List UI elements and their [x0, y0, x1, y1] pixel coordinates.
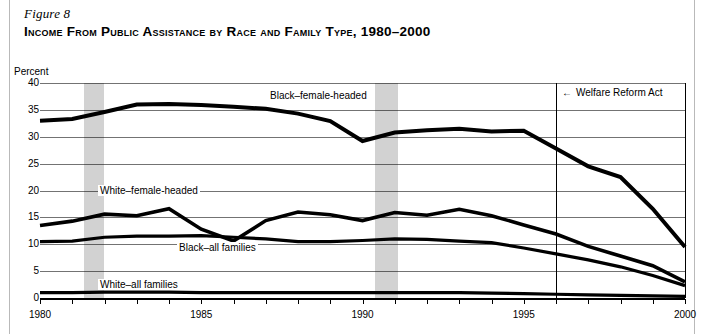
- x-axis-tick: [40, 299, 41, 304]
- x-axis-tick-label: 1990: [333, 309, 393, 320]
- x-axis-tick: [524, 299, 525, 304]
- x-axis-tick: [234, 299, 235, 304]
- plot-area: 051015202530354019801985199019952000Blac…: [40, 83, 686, 298]
- x-axis-tick-label: 1995: [494, 309, 554, 320]
- series-label-black-all-families: Black–all families: [177, 242, 258, 253]
- x-axis-tick: [72, 299, 73, 304]
- series-label-white-all-families: White–all families: [98, 279, 180, 290]
- x-axis-tick: [363, 299, 364, 304]
- x-axis-tick: [685, 299, 686, 304]
- welfare-reform-act-label: Welfare Reform Act: [576, 87, 663, 98]
- figure-title: Income From Public Assistance by Race an…: [24, 24, 431, 39]
- y-axis-tick-label: 35: [5, 105, 39, 115]
- x-axis-tick-label: 2000: [655, 309, 702, 320]
- page-rule-right: [694, 0, 695, 334]
- x-axis-tick: [201, 299, 202, 304]
- y-axis-unit-label: Percent: [14, 66, 48, 77]
- x-axis-tick: [105, 299, 106, 304]
- x-axis-tick: [459, 299, 460, 304]
- y-axis-tick-label: 25: [5, 159, 39, 169]
- x-axis-tick-label: 1985: [171, 309, 231, 320]
- x-axis-tick: [653, 299, 654, 304]
- x-axis-tick: [556, 299, 557, 304]
- x-axis-tick: [492, 299, 493, 304]
- x-axis-tick: [621, 299, 622, 304]
- x-axis-tick: [395, 299, 396, 304]
- figure-number: Figure 8: [24, 6, 70, 22]
- y-axis-tick-label: 20: [5, 186, 39, 196]
- figure-panel: Figure 8 Income From Public Assistance b…: [0, 0, 702, 334]
- series-label-black-female-headed: Black–female-headed: [268, 90, 369, 101]
- y-axis-tick-label: 5: [5, 266, 39, 276]
- x-axis-tick: [137, 299, 138, 304]
- arrow-left-icon: ←: [562, 87, 572, 98]
- series-line-white-female-headed: [40, 209, 685, 282]
- x-axis-tick: [330, 299, 331, 304]
- series-label-white-female-headed: White–female-headed: [98, 185, 200, 196]
- welfare-reform-act-annotation: ←Welfare Reform Act: [562, 87, 663, 98]
- series-line-black-female-headed: [40, 104, 685, 247]
- y-axis-tick-label: 40: [5, 78, 39, 88]
- x-axis-tick: [266, 299, 267, 304]
- series-line-white-all-families: [40, 292, 685, 296]
- x-axis-tick: [169, 299, 170, 304]
- x-axis-tick: [588, 299, 589, 304]
- x-axis-tick-label: 1980: [10, 309, 70, 320]
- y-axis-tick-label: 15: [5, 212, 39, 222]
- y-axis-tick-label: 0: [5, 293, 39, 303]
- y-axis-tick-label: 10: [5, 239, 39, 249]
- y-axis-tick-label: 30: [5, 132, 39, 142]
- x-axis-tick: [298, 299, 299, 304]
- x-axis-tick: [427, 299, 428, 304]
